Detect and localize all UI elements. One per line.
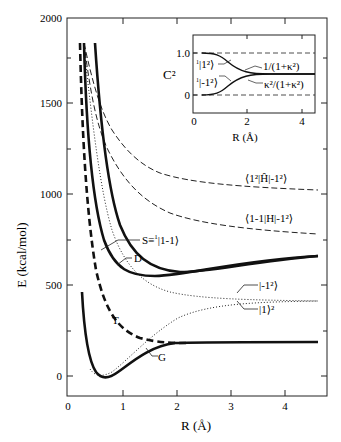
inset-y-tick-0: 0: [185, 89, 191, 101]
inset-x-tick-2: 2: [244, 115, 250, 127]
x-tick-1: 1: [120, 400, 126, 412]
curve-G: [82, 292, 318, 377]
leader-lines: [101, 240, 258, 356]
label-h1: ⟨1²|Ĥ|-1²⟩: [245, 172, 287, 184]
label-h2: ⟨1-1|H|-1²⟩: [245, 212, 293, 224]
inset-bottom-curve-label: κ²/(1+κ²): [264, 78, 304, 91]
x-tick-3: 3: [228, 400, 234, 412]
inset-x-tick-0: 0: [191, 115, 197, 127]
inset-bottom-state: 1|-1²⟩: [196, 76, 218, 88]
label-S: S≡1|1-1⟩: [142, 233, 179, 246]
y-axis-label: E (kcal/mol): [14, 222, 29, 287]
x-tick-4: 4: [282, 400, 288, 412]
y-tick-1500: 1500: [40, 97, 63, 109]
label-D: D: [134, 252, 142, 264]
y-tick-1000: 1000: [40, 188, 63, 200]
inset-top-curve-label: 1/(1+κ²): [263, 60, 300, 73]
inset-y-label: C²: [163, 67, 176, 82]
label-T: T: [112, 314, 119, 326]
inset-x-tick-4: 4: [299, 115, 305, 127]
label-minus1sq: |-1²⟩: [259, 279, 278, 291]
label-G: G: [158, 351, 166, 363]
curve-1sq: [90, 301, 318, 375]
y-tick-2000: 2000: [40, 12, 63, 24]
inset-x-label: R (Å): [232, 131, 258, 144]
curve-T: [80, 43, 190, 343]
inset-chart: 1.0 0 0 2 4 R (Å) C² 1|1²⟩ 1|-1²⟩ 1/(1+κ…: [163, 35, 315, 144]
y-tick-500: 500: [46, 279, 63, 291]
x-tick-0: 0: [65, 400, 71, 412]
inset-top-state: 1|1²⟩: [196, 58, 214, 70]
energy-chart: 0 500 1000 1500 2000 0 1 2 3 4 R (Å) E (…: [0, 0, 341, 442]
label-1sq: |1⟩²: [259, 303, 275, 315]
inset-y-tick-1: 1.0: [176, 47, 190, 59]
y-tick-0: 0: [57, 370, 63, 382]
x-tick-2: 2: [174, 400, 180, 412]
x-axis-label: R (Å): [181, 418, 211, 433]
